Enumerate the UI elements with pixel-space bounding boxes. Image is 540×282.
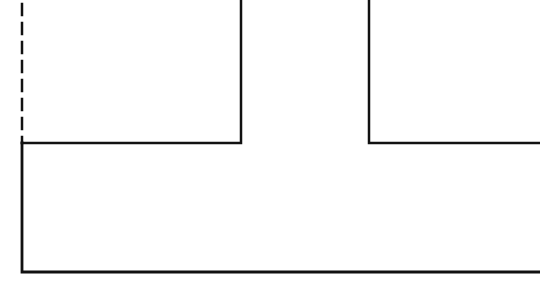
background — [0, 0, 540, 282]
diagram-canvas — [0, 0, 540, 282]
